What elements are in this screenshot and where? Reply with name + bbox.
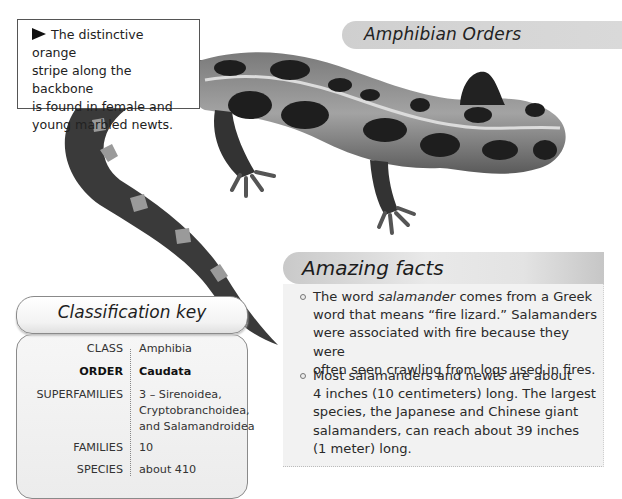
fact-2-line-2: 4 inches (10 centimeters) long. The larg…: [313, 386, 596, 401]
section-header-bar: Amphibian Orders: [342, 21, 622, 49]
classification-key-title: Classification key: [17, 302, 247, 322]
row-label: FAMILIES: [73, 440, 123, 456]
bullet-icon: [300, 373, 306, 379]
superfamilies-line-3: and Salamandroidea: [139, 420, 255, 433]
callout-line-2: stripe along the backbone: [32, 63, 132, 96]
fact-2-line-4: salamanders, can reach about 39 inches: [313, 423, 579, 438]
row-value: Amphibia: [139, 341, 192, 357]
callout-line-1: The distinctive orange: [32, 27, 143, 60]
fact-1-line-2: word that means “fire lizard.” Salamande…: [313, 307, 597, 322]
row-value: 10: [139, 440, 153, 456]
row-label: CLASS: [87, 341, 123, 357]
amazing-facts-title: Amazing facts: [302, 256, 444, 280]
row-label: ORDER: [79, 364, 123, 380]
fact-1-text-b: comes from a Greek: [455, 289, 592, 304]
classification-key-header: Classification key: [16, 296, 248, 334]
callout-line-4: young marbled newts.: [32, 117, 173, 132]
superfamilies-line-2: Cryptobranchoidea,: [139, 404, 250, 417]
classification-divider: [130, 349, 131, 476]
superfamilies-line-1: 3 – Sirenoidea,: [139, 388, 222, 401]
fact-1-text-a: The word: [313, 289, 378, 304]
row-label: SPECIES: [77, 462, 123, 478]
amazing-facts-panel: The word salamander comes from a Greek w…: [283, 284, 604, 467]
section-title: Amphibian Orders: [364, 24, 521, 44]
newt-stripe-callout: The distinctive orange stripe along the …: [17, 19, 200, 109]
amazing-facts-header: Amazing facts: [283, 252, 604, 284]
row-value: 3 – Sirenoidea, Cryptobranchoidea, and S…: [139, 387, 255, 435]
fact-1-italic-word: salamander: [378, 289, 455, 304]
row-value: about 410: [139, 462, 196, 478]
fact-2-line-3: species, the Japanese and Chinese giant: [313, 404, 578, 419]
right-triangle-icon: [32, 28, 46, 40]
fact-2-line-1: Most salamanders and newts are about: [313, 368, 572, 383]
fact-item-1: The word salamander comes from a Greek w…: [313, 288, 603, 379]
row-value: Caudata: [139, 364, 191, 380]
callout-line-3: is found in female and: [32, 99, 173, 114]
fact-item-2: Most salamanders and newts are about 4 i…: [313, 367, 603, 458]
row-label: SUPERFAMILIES: [36, 387, 123, 403]
bullet-icon: [300, 294, 306, 300]
fact-2-line-5: (1 meter) long.: [313, 441, 412, 456]
fact-1-line-3: were associated with fire because they w…: [313, 325, 569, 358]
